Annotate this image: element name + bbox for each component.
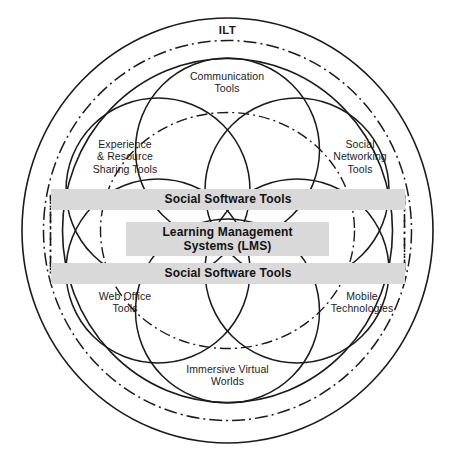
petal-circle-communication-tools: [136, 58, 320, 242]
venn-diagram-root: ILT Communication Tools Experience & Res…: [0, 0, 455, 460]
band-social-software-tools-bottom: Social Software Tools: [51, 263, 405, 284]
band-social-software-tools-top: Social Software Tools: [51, 189, 405, 210]
band-learning-management-systems: Learning Management Systems (LMS): [126, 222, 329, 256]
